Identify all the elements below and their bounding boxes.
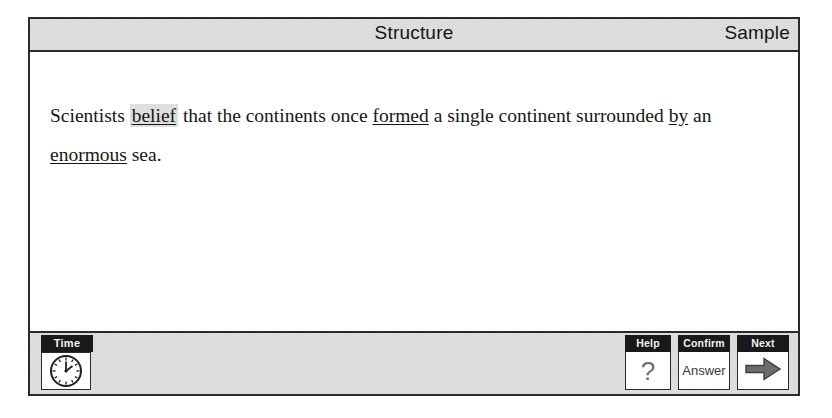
error-word-belief[interactable]: belief bbox=[130, 104, 178, 127]
bottom-toolbar: Time bbox=[30, 331, 798, 394]
sample-label: Sample bbox=[724, 22, 790, 44]
passage-segment: an bbox=[688, 105, 711, 126]
toolbar-button-cluster: Help ? Confirm Answer Next bbox=[625, 335, 789, 390]
passage-segment: a single continent surrounded bbox=[429, 105, 669, 126]
passage-area: Scientists belief that the continents on… bbox=[30, 52, 798, 331]
help-button-body[interactable]: ? bbox=[625, 352, 671, 390]
error-word-by[interactable]: by bbox=[669, 105, 689, 126]
analog-clock-icon bbox=[41, 352, 91, 390]
passage-text: Scientists belief that the continents on… bbox=[50, 96, 762, 174]
confirm-button-body[interactable]: Answer bbox=[678, 352, 730, 390]
next-button-caption: Next bbox=[737, 335, 789, 352]
answer-label: Answer bbox=[682, 363, 725, 378]
help-button-caption: Help bbox=[625, 335, 671, 352]
passage-segment: that the continents once bbox=[178, 105, 372, 126]
next-button[interactable]: Next bbox=[737, 335, 789, 390]
confirm-button[interactable]: Confirm Answer bbox=[678, 335, 730, 390]
right-arrow-icon bbox=[744, 356, 782, 386]
exercise-window: Structure Sample Scientists belief that … bbox=[28, 17, 800, 396]
passage-segment: sea. bbox=[127, 144, 162, 165]
next-button-body[interactable] bbox=[737, 352, 789, 390]
header-bar: Structure Sample bbox=[30, 19, 798, 52]
confirm-button-caption: Confirm bbox=[678, 335, 730, 352]
page-title: Structure bbox=[30, 22, 798, 44]
time-widget: Time bbox=[41, 335, 93, 390]
time-label: Time bbox=[41, 335, 93, 352]
passage-segment: Scientists bbox=[50, 105, 130, 126]
question-mark-icon: ? bbox=[641, 358, 655, 384]
error-word-formed[interactable]: formed bbox=[372, 105, 428, 126]
help-button[interactable]: Help ? bbox=[625, 335, 671, 390]
error-word-enormous[interactable]: enormous bbox=[50, 144, 127, 165]
